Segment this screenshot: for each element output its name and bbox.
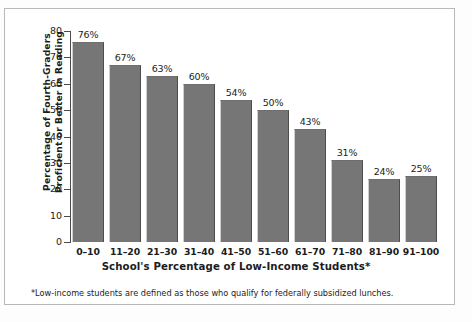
y-axis-tick — [64, 84, 71, 85]
bar-group: 24%81–90 — [368, 0, 400, 322]
y-axis-tick — [64, 189, 71, 190]
y-axis-tick — [64, 57, 71, 58]
bar[interactable] — [405, 176, 437, 242]
plot-area: Percentage of Fourth-Graders Proficient … — [0, 0, 472, 322]
bar-group: 67%11–20 — [109, 0, 141, 322]
bar-group: 76%0–10 — [72, 0, 104, 322]
bar[interactable] — [109, 65, 141, 242]
y-axis-tick-label: 60 — [44, 79, 62, 89]
y-axis-tick — [64, 137, 71, 138]
y-axis-tick-label: 70 — [44, 52, 62, 62]
bar-value-label: 25% — [399, 163, 443, 174]
bar-value-label: 31% — [325, 147, 369, 158]
y-axis-tick-label: 0 — [44, 237, 62, 247]
y-axis-tick-label: 30 — [44, 158, 62, 168]
bar-value-label: 43% — [288, 116, 332, 127]
bar[interactable] — [368, 179, 400, 242]
y-axis-tick — [64, 163, 71, 164]
bar-group: 63%21–30 — [146, 0, 178, 322]
bar[interactable] — [146, 76, 178, 242]
bar[interactable] — [183, 84, 215, 242]
y-axis-tick — [64, 216, 71, 217]
y-axis-tick-label: 10 — [44, 211, 62, 221]
footnote: *Low-income students are defined as thos… — [31, 288, 393, 298]
bar-value-label: 76% — [66, 29, 110, 40]
y-axis-tick-label: 80 — [44, 26, 62, 36]
bar[interactable] — [294, 129, 326, 242]
bar-value-label: 67% — [103, 52, 147, 63]
y-axis-tick — [64, 110, 71, 111]
bar-group: 60%31–40 — [183, 0, 215, 322]
bar-value-label: 54% — [214, 87, 258, 98]
bar[interactable] — [220, 100, 252, 242]
y-axis-tick-label: 20 — [44, 184, 62, 194]
y-axis-tick — [64, 242, 71, 243]
y-axis-tick-label: 50 — [44, 105, 62, 115]
bar-group: 31%71–80 — [331, 0, 363, 322]
bar-value-label: 60% — [177, 71, 221, 82]
x-axis-title: School's Percentage of Low-Income Studen… — [0, 261, 472, 272]
bar-group: 50%51–60 — [257, 0, 289, 322]
bar[interactable] — [257, 110, 289, 242]
bar-group: 54%41–50 — [220, 0, 252, 322]
bar[interactable] — [72, 42, 104, 242]
bar[interactable] — [331, 160, 363, 242]
y-axis-tick-label: 40 — [44, 132, 62, 142]
bar-value-label: 50% — [251, 97, 295, 108]
bar-group: 25%91–100 — [405, 0, 437, 322]
x-axis-tick-label: 91–100 — [396, 246, 446, 257]
chart-screenshot: Percentage of Fourth-Graders Proficient … — [0, 0, 472, 322]
bar-group: 43%61–70 — [294, 0, 326, 322]
